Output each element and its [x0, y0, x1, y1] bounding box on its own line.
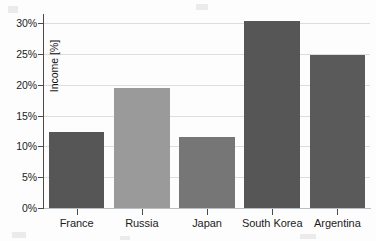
y-axis-tick: [38, 23, 43, 24]
y-axis-tick-label: 0%: [1, 203, 37, 213]
y-axis-tick: [38, 54, 43, 55]
bar-argentina[interactable]: [310, 55, 366, 208]
y-axis-tick-label: 15%: [1, 111, 37, 121]
scan-artifact: [300, 234, 316, 239]
x-axis-tick: [77, 209, 78, 215]
bar-france[interactable]: [49, 132, 105, 208]
x-axis-tick-label: Japan: [192, 217, 222, 229]
y-axis-tick-label: 30%: [1, 18, 37, 28]
scan-artifact: [120, 236, 130, 240]
y-axis-title: Income [%]: [44, 18, 58, 118]
y-axis-tick: [38, 85, 43, 86]
y-axis-tick: [38, 177, 43, 178]
plot-area: [44, 14, 370, 208]
bar-russia[interactable]: [114, 88, 170, 208]
y-axis-tick: [38, 208, 43, 209]
x-axis-tick-label: South Korea: [242, 217, 303, 229]
x-axis-tick-label: Russia: [125, 217, 158, 229]
x-axis-tick-label: France: [60, 217, 94, 229]
chart-page: 0%5%10%15%20%25%30% Income [%] FranceRus…: [0, 0, 376, 241]
y-axis-tick-label: 20%: [1, 80, 37, 90]
x-axis-tick: [337, 209, 338, 215]
y-axis-tick: [38, 116, 43, 117]
scan-artifact: [196, 4, 208, 10]
x-axis-tick-label: Argentina: [314, 217, 361, 229]
y-axis-title-label: Income [%]: [48, 20, 60, 112]
y-axis-tick-label: 10%: [1, 141, 37, 151]
y-axis-tick-labels: 0%5%10%15%20%25%30%: [0, 0, 37, 241]
bars-layer: [44, 14, 370, 208]
bar-south-korea[interactable]: [244, 21, 300, 208]
bar-japan[interactable]: [179, 137, 235, 208]
x-axis-tick: [142, 209, 143, 215]
x-axis-tick: [207, 209, 208, 215]
x-axis-tick: [272, 209, 273, 215]
y-axis-tick-label: 25%: [1, 49, 37, 59]
y-axis-tick-label: 5%: [1, 172, 37, 182]
y-axis-tick: [38, 146, 43, 147]
